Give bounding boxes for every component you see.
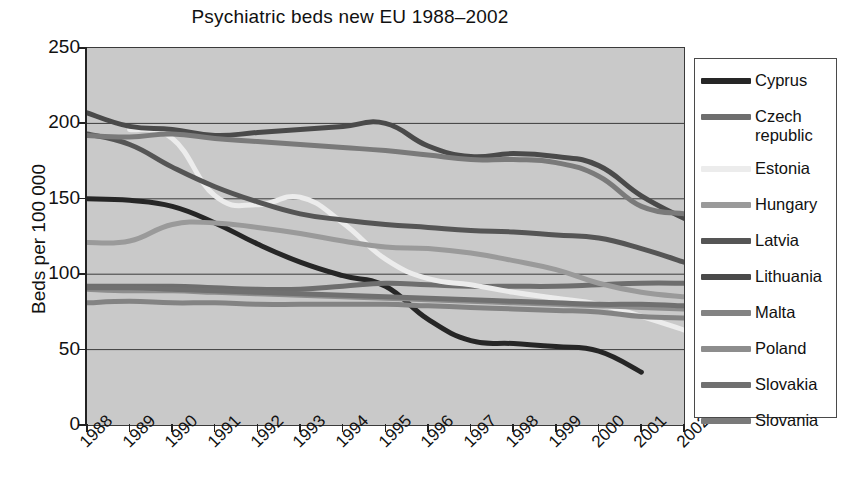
legend: CyprusCzech republicEstoniaHungaryLatvia… bbox=[694, 58, 837, 418]
legend-label: Poland bbox=[755, 339, 806, 358]
y-axis-ticks: 050100150200250 bbox=[18, 0, 80, 493]
legend-label: Czech republic bbox=[755, 107, 837, 145]
legend-item-poland[interactable]: Poland bbox=[701, 339, 837, 358]
legend-item-czech-republic[interactable]: Czech republic bbox=[701, 107, 837, 145]
legend-item-slovakia[interactable]: Slovakia bbox=[701, 375, 837, 394]
chart-figure: Psychiatric beds new EU 1988–2002 Beds p… bbox=[0, 0, 843, 493]
legend-swatch-icon bbox=[701, 346, 751, 352]
legend-swatch-icon bbox=[701, 382, 751, 388]
legend-item-cyprus[interactable]: Cyprus bbox=[701, 71, 837, 90]
y-axis-spine bbox=[85, 47, 87, 424]
y-tick-label: 0 bbox=[20, 413, 80, 435]
legend-label: Slovania bbox=[755, 411, 818, 430]
legend-label: Estonia bbox=[755, 159, 810, 178]
y-tick-label: 250 bbox=[20, 36, 80, 58]
legend-item-latvia[interactable]: Latvia bbox=[701, 231, 837, 250]
y-tick-label: 150 bbox=[20, 187, 80, 209]
series-line bbox=[87, 134, 684, 214]
y-tick-label: 100 bbox=[20, 262, 80, 284]
legend-swatch-icon bbox=[701, 418, 751, 424]
legend-item-lithuania[interactable]: Lithuania bbox=[701, 267, 837, 286]
legend-label: Malta bbox=[755, 303, 795, 322]
series-line bbox=[87, 134, 684, 262]
legend-item-slovania[interactable]: Slovania bbox=[701, 411, 837, 430]
legend-item-hungary[interactable]: Hungary bbox=[701, 195, 837, 214]
legend-item-malta[interactable]: Malta bbox=[701, 303, 837, 322]
series-canvas bbox=[87, 48, 684, 425]
legend-label: Hungary bbox=[755, 195, 817, 214]
legend-label: Slovakia bbox=[755, 375, 817, 394]
legend-label: Lithuania bbox=[755, 267, 822, 286]
y-tick-mark bbox=[79, 424, 86, 426]
legend-swatch-icon bbox=[701, 78, 751, 84]
chart-title: Psychiatric beds new EU 1988–2002 bbox=[0, 6, 700, 28]
legend-swatch-icon bbox=[701, 310, 751, 316]
y-tick-label: 200 bbox=[20, 111, 80, 133]
legend-item-estonia[interactable]: Estonia bbox=[701, 159, 837, 178]
legend-swatch-icon bbox=[701, 238, 751, 244]
legend-label: Latvia bbox=[755, 231, 799, 250]
legend-swatch-icon bbox=[701, 114, 751, 120]
legend-swatch-icon bbox=[701, 274, 751, 280]
y-tick-label: 50 bbox=[20, 338, 80, 360]
legend-label: Cyprus bbox=[755, 71, 807, 90]
plot-area bbox=[86, 47, 685, 426]
legend-swatch-icon bbox=[701, 166, 751, 172]
legend-swatch-icon bbox=[701, 202, 751, 208]
series-line bbox=[87, 113, 684, 219]
